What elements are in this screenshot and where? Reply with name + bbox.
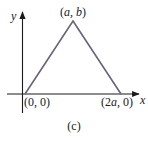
apex-close: ) — [82, 5, 86, 19]
triangle-outline — [25, 21, 121, 94]
vertex-label-right: (2a, 0) — [101, 95, 133, 109]
vertex-label-origin: (0, 0) — [24, 95, 50, 109]
vertex-label-apex: (a, b) — [60, 5, 86, 19]
triangle-diagram: y x (a, b) (0, 0) (2a, 0) (c) — [0, 0, 148, 141]
origin-close: ) — [46, 95, 50, 109]
y-axis-label: y — [10, 9, 17, 23]
figure-caption: (c) — [67, 119, 80, 133]
right-close: ) — [129, 95, 133, 109]
x-axis-label: x — [139, 93, 146, 107]
